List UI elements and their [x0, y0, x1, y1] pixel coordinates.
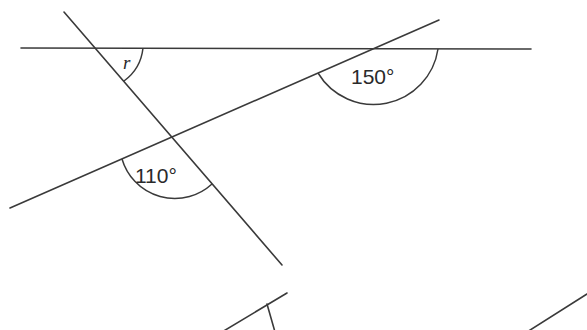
angle-r-label: r [123, 52, 131, 73]
angle-150-label: 150° [351, 65, 394, 88]
bottom-right-partial-line [527, 294, 587, 330]
horizontal-line [21, 48, 531, 49]
bottom-left-partial-line [222, 293, 287, 330]
bottom-tick-line [267, 304, 275, 330]
geometry-diagram: r 150° 110° [0, 0, 587, 330]
steep-transversal-line [64, 12, 282, 265]
angle-110-label: 110° [135, 164, 177, 187]
